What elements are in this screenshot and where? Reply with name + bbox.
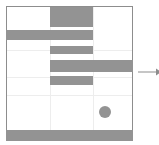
arrow-head bbox=[156, 69, 159, 76]
gridline-horizontal-3 bbox=[7, 95, 132, 96]
bar-5 bbox=[50, 76, 93, 85]
bar-2 bbox=[6, 30, 93, 40]
bar-4 bbox=[50, 60, 133, 72]
dot-marker bbox=[99, 106, 111, 118]
bar-3 bbox=[50, 46, 93, 54]
bar-1 bbox=[50, 7, 93, 27]
right-arrow-icon bbox=[138, 66, 159, 78]
gridline-vertical-2 bbox=[93, 7, 94, 140]
chart-figure bbox=[0, 0, 159, 145]
bar-6 bbox=[6, 130, 133, 141]
